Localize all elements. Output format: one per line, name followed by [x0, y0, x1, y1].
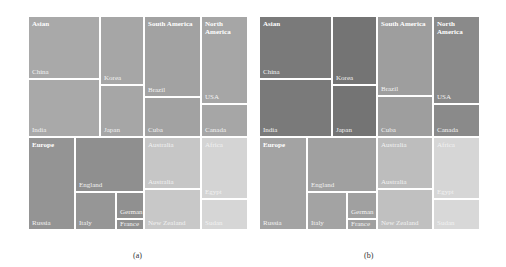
treemap-panel-a: Asian China India Korea Japan South Amer… [28, 16, 248, 230]
label-usa: USA [437, 93, 451, 101]
group-label-europe: Europe [263, 141, 307, 149]
label-cuba: Cuba [381, 126, 396, 134]
cell-brazil: South America Brazil [377, 16, 433, 96]
cell-england: England [307, 137, 377, 192]
group-label-asian: Asian [32, 20, 76, 28]
label-italy: Italy [79, 219, 92, 227]
label-egypt: Egypt [437, 188, 454, 196]
label-cuba: Cuba [148, 126, 163, 134]
cell-australia: Australia Australia [377, 137, 433, 189]
label-sudan: Sudan [437, 219, 455, 227]
cell-france: France [116, 219, 144, 230]
group-label-asian: Asian [263, 20, 307, 28]
cell-new-zealand: New Zealand [144, 189, 201, 230]
cell-sudan: Sudan [433, 199, 480, 230]
cell-egypt: Africa Egypt [201, 137, 248, 199]
label-russia: Russia [32, 219, 51, 227]
label-china: China [32, 68, 49, 76]
label-france: France [351, 220, 370, 228]
cell-japan: Japan [332, 85, 377, 137]
label-korea: Korea [336, 74, 353, 82]
group-label-north-america: North America [437, 20, 471, 36]
cell-korea: Korea [332, 16, 377, 85]
label-sudan: Sudan [205, 219, 223, 227]
label-australia: Australia [148, 178, 174, 186]
group-label-africa: Africa [437, 141, 455, 149]
label-canada: Canada [205, 126, 226, 134]
treemap-panel-b: Asian China India Korea Japan South Amer… [259, 16, 480, 230]
cell-russia: Europe Russia [28, 137, 75, 230]
label-india: India [263, 126, 277, 134]
label-india: India [32, 126, 46, 134]
label-german: German [351, 208, 374, 216]
label-russia: Russia [263, 219, 282, 227]
cell-china: Asian China [259, 16, 332, 79]
cell-german: German [116, 192, 144, 219]
label-china: China [263, 68, 280, 76]
group-label-north-america: North America [205, 20, 239, 36]
cell-german: German [347, 192, 377, 219]
label-france: France [120, 220, 139, 228]
label-italy: Italy [311, 219, 324, 227]
cell-china: Asian China [28, 16, 100, 79]
cell-new-zealand: New Zealand [377, 189, 433, 230]
caption-b: (b) [364, 251, 373, 260]
cell-japan: Japan [100, 85, 144, 137]
label-german: German [120, 208, 143, 216]
cell-korea: Korea [100, 16, 144, 85]
group-label-australia: Australia [148, 141, 174, 149]
label-brazil: Brazil [381, 85, 398, 93]
label-new-zealand: New Zealand [381, 219, 419, 227]
cell-canada: Canada [201, 104, 248, 137]
cell-france: France [347, 219, 377, 230]
group-label-south-america: South America [148, 20, 208, 28]
cell-india: India [28, 79, 100, 137]
label-usa: USA [205, 93, 219, 101]
label-england: England [79, 181, 102, 189]
cell-usa: North America USA [201, 16, 248, 104]
label-korea: Korea [104, 74, 121, 82]
cell-italy: Italy [75, 192, 116, 230]
label-canada: Canada [437, 126, 458, 134]
cell-canada: Canada [433, 104, 480, 137]
group-label-europe: Europe [32, 141, 76, 149]
cell-italy: Italy [307, 192, 347, 230]
group-label-south-america: South America [381, 20, 441, 28]
caption-a: (a) [133, 251, 142, 260]
group-label-africa: Africa [205, 141, 223, 149]
label-egypt: Egypt [205, 188, 222, 196]
cell-india: India [259, 79, 332, 137]
cell-sudan: Sudan [201, 199, 248, 230]
cell-brazil: South America Brazil [144, 16, 201, 97]
group-label-australia: Australia [381, 141, 407, 149]
label-new-zealand: New Zealand [148, 219, 186, 227]
cell-usa: North America USA [433, 16, 480, 104]
label-england: England [311, 181, 334, 189]
cell-cuba: Cuba [377, 96, 433, 137]
cell-russia: Europe Russia [259, 137, 307, 230]
label-australia: Australia [381, 178, 407, 186]
cell-egypt: Africa Egypt [433, 137, 480, 199]
label-japan: Japan [104, 126, 120, 134]
cell-england: England [75, 137, 144, 192]
label-japan: Japan [336, 126, 352, 134]
label-brazil: Brazil [148, 86, 165, 94]
cell-australia: Australia Australia [144, 137, 201, 189]
cell-cuba: Cuba [144, 97, 201, 137]
